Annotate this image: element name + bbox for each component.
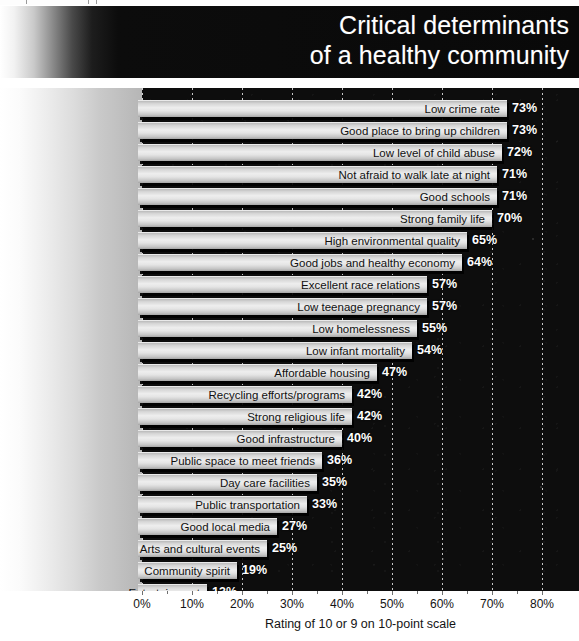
bar-row[interactable]: Recycling efforts/programs42%	[0, 386, 579, 408]
bar[interactable]: Recycling efforts/programs	[138, 386, 352, 403]
bar-value-label: 40%	[347, 430, 372, 447]
bar[interactable]: Not afraid to walk late at night	[138, 166, 497, 183]
x-axis-tick	[342, 591, 343, 595]
bar-category-label: Recycling efforts/programs	[208, 387, 345, 404]
bar-category-label: Low crime rate	[425, 101, 500, 118]
x-axis-minor-tick	[467, 591, 468, 594]
bar-category-label: Good schools	[420, 189, 490, 206]
x-axis-tick	[192, 591, 193, 595]
bar-value-label: 42%	[357, 386, 382, 403]
page-title-line-2: of a healthy community	[310, 40, 569, 70]
bar-value-label: 73%	[512, 100, 537, 117]
bar[interactable]: Good infrastructure	[138, 430, 342, 447]
x-axis-tick	[542, 591, 543, 595]
x-axis-minor-tick	[517, 591, 518, 594]
bar[interactable]: Strong religious life	[138, 408, 352, 425]
bar-row[interactable]: Low crime rate73%	[0, 100, 579, 122]
bar-category-label: Good local media	[181, 519, 271, 536]
bar-row[interactable]: Community spirit19%	[0, 562, 579, 584]
bar-row[interactable]: Low level of child abuse72%	[0, 144, 579, 166]
bar-row[interactable]: Good place to bring up children73%	[0, 122, 579, 144]
bar-category-label: Public space to meet friends	[171, 453, 315, 470]
bar-category-label: Excellent race relations	[301, 277, 420, 294]
bar[interactable]: High environmental quality	[138, 232, 467, 249]
scan-tick	[26, 0, 27, 4]
bar-category-label: Low homelessness	[312, 321, 410, 338]
bar-category-label: Low teenage pregnancy	[297, 299, 420, 316]
page-title: Critical determinants of a healthy commu…	[310, 10, 569, 70]
bar[interactable]: Good place to bring up children	[138, 122, 507, 139]
bar[interactable]: Low infant mortality	[138, 342, 412, 359]
bar[interactable]: Excellent race relations	[138, 276, 427, 293]
bar-value-label: 47%	[382, 364, 407, 381]
scan-tick	[88, 0, 89, 4]
bar-value-label: 64%	[467, 254, 492, 271]
bar-row[interactable]: Low teenage pregnancy57%	[0, 298, 579, 320]
bar[interactable]: Strong family life	[138, 210, 492, 227]
x-axis-tick	[492, 591, 493, 595]
bar-row[interactable]: Strong family life70%	[0, 210, 579, 232]
bar-row[interactable]: Good infrastructure40%	[0, 430, 579, 452]
scan-edge-artifact	[0, 0, 579, 5]
bar-value-label: 25%	[272, 540, 297, 557]
bar[interactable]: Affordable housing	[138, 364, 377, 381]
x-axis-tick	[242, 591, 243, 595]
header-gap-strip	[0, 78, 579, 88]
bar-category-label: High environmental quality	[324, 233, 460, 250]
x-axis-tick	[392, 591, 393, 595]
bar-row[interactable]: Public transportation33%	[0, 496, 579, 518]
bar-category-label: Not afraid to walk late at night	[339, 167, 491, 184]
bar[interactable]: Day care facilities	[138, 474, 317, 491]
x-axis: 0%10%20%30%40%50%60%70%80% Rating of 10 …	[0, 591, 579, 641]
bar[interactable]: Low crime rate	[138, 100, 507, 117]
bar-row[interactable]: Low infant mortality54%	[0, 342, 579, 364]
bar[interactable]: Good local media	[138, 518, 277, 535]
bar-row[interactable]: Low homelessness55%	[0, 320, 579, 342]
x-axis-tick-label: 60%	[430, 597, 454, 611]
bar[interactable]: Community spirit	[138, 562, 237, 579]
bar-row[interactable]: Public space to meet friends36%	[0, 452, 579, 474]
bar-value-label: 36%	[327, 452, 352, 469]
bar-row[interactable]: Day care facilities35%	[0, 474, 579, 496]
bar[interactable]: Public transportation	[138, 496, 307, 513]
bar[interactable]: Good schools	[138, 188, 497, 205]
bar-value-label: 71%	[502, 166, 527, 183]
x-axis-minor-tick	[317, 591, 318, 594]
bar-category-label: Community spirit	[144, 563, 230, 580]
bar-value-label: 73%	[512, 122, 537, 139]
x-axis-tick-label: 30%	[280, 597, 304, 611]
bar[interactable]: Low homelessness	[138, 320, 417, 337]
x-axis-minor-tick	[417, 591, 418, 594]
bar-category-label: Affordable housing	[274, 365, 370, 382]
bar-row[interactable]: Arts and cultural events25%	[0, 540, 579, 562]
x-axis-tick-label: 40%	[330, 597, 354, 611]
bar-row[interactable]: Good schools71%	[0, 188, 579, 210]
x-axis-tick-label: 80%	[530, 597, 554, 611]
bar-row[interactable]: Not afraid to walk late at night71%	[0, 166, 579, 188]
bar-value-label: 33%	[312, 496, 337, 513]
x-axis-tick	[142, 591, 143, 595]
bar-category-label: Strong family life	[400, 211, 485, 228]
bar[interactable]: Public space to meet friends	[138, 452, 322, 469]
bar-row[interactable]: Affordable housing47%	[0, 364, 579, 386]
bar-row[interactable]: Strong religious life42%	[0, 408, 579, 430]
bar-row[interactable]: Excellent race relations57%	[0, 276, 579, 298]
scan-tick	[96, 0, 97, 4]
bar-row[interactable]: High environmental quality65%	[0, 232, 579, 254]
bar-row[interactable]: Good local media27%	[0, 518, 579, 540]
bar[interactable]: Arts and cultural events	[138, 540, 267, 557]
bar-value-label: 57%	[432, 298, 457, 315]
x-axis-tick	[292, 591, 293, 595]
x-axis-tick-label: 10%	[180, 597, 204, 611]
x-axis-minor-tick	[217, 591, 218, 594]
bar-row[interactable]: Good jobs and healthy economy64%	[0, 254, 579, 276]
bar-value-label: 35%	[322, 474, 347, 491]
bar[interactable]: Low level of child abuse	[138, 144, 502, 161]
bar[interactable]: Good jobs and healthy economy	[138, 254, 462, 271]
bar-value-label: 54%	[417, 342, 442, 359]
x-axis-tick-label: 50%	[380, 597, 404, 611]
bar[interactable]: Low teenage pregnancy	[138, 298, 427, 315]
x-axis-minor-tick	[267, 591, 268, 594]
bar-category-label: Strong religious life	[247, 409, 345, 426]
bar-category-label: Low level of child abuse	[373, 145, 495, 162]
